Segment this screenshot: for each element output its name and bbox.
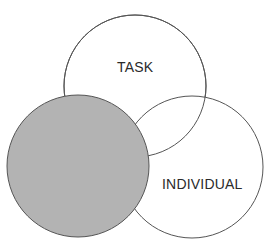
venn-diagram: TASK INDIVIDUAL <box>0 0 270 247</box>
task-label: TASK <box>117 60 153 74</box>
individual-label: INDIVIDUAL <box>162 177 243 191</box>
venn-canvas <box>0 0 270 247</box>
shaded-circle <box>7 95 149 237</box>
